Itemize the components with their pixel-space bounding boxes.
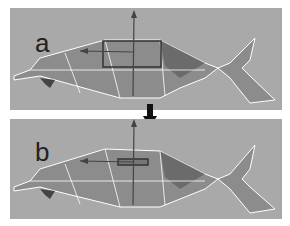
viewport-panel-b: b (10, 119, 282, 219)
fish-mesh-a (10, 8, 282, 110)
viewport-panel-a: a (10, 8, 282, 110)
fish-mesh-b (10, 119, 282, 219)
